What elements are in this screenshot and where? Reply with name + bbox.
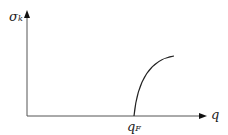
axes-and-curve [0,0,228,135]
x-axis-label: q [211,108,219,121]
y-axis-label: σk [9,10,23,23]
y-axis-arrow-icon [24,10,30,18]
qf-label: qF [127,120,141,133]
x-axis-arrow-icon [199,113,207,119]
curve [134,56,174,116]
diagram: σk q qF [0,0,228,135]
